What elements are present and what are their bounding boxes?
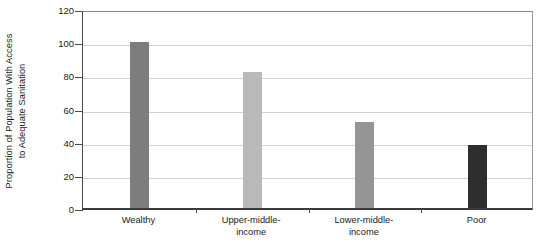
y-axis-tick-mark [75, 210, 83, 211]
x-axis-category-label: Lower-middle-income [334, 214, 393, 238]
y-axis-tick-label: 40 [40, 139, 74, 149]
x-axis-category-label: Wealthy [122, 214, 155, 226]
x-axis-category-label: Poor [467, 214, 487, 226]
x-axis-category-label-line: Wealthy [122, 214, 155, 226]
x-axis-category-labels: WealthyUpper-middle-incomeLower-middle-i… [82, 214, 533, 250]
y-axis-tick-label: 60 [40, 106, 74, 116]
x-axis-category-label-line: Upper-middle- [222, 214, 281, 226]
x-axis-category-label-line: Lower-middle- [334, 214, 393, 226]
gridline [83, 178, 532, 179]
bar [243, 72, 262, 208]
plot-area [82, 11, 533, 210]
x-axis-category-label: Upper-middle-income [222, 214, 281, 238]
gridline [83, 45, 532, 46]
y-axis-tick-label: 0 [40, 205, 74, 215]
x-axis-category-label-line: income [334, 226, 393, 238]
y-axis-tick-label: 100 [40, 39, 74, 49]
x-axis-tick-mark [421, 208, 422, 213]
y-axis-tick-label: 120 [40, 6, 74, 16]
gridline [83, 78, 532, 79]
x-axis-category-label-line: Poor [467, 214, 487, 226]
x-axis-category-label-line: income [222, 226, 281, 238]
y-axis-tick-label: 80 [40, 72, 74, 82]
gridline [83, 145, 532, 146]
y-axis-tick-labels: 020406080100120 [36, 0, 74, 250]
y-axis-title-line-2: to Adequate Sanitation [15, 33, 28, 188]
y-axis-title: Proportion of Population With Access to … [0, 11, 30, 210]
bar [468, 145, 487, 208]
y-axis-title-line-1: Proportion of Population With Access [3, 33, 16, 188]
bar [355, 122, 374, 208]
gridline [83, 112, 532, 113]
x-axis-tick-mark [309, 208, 310, 213]
x-axis-tick-mark [196, 208, 197, 213]
bar-chart-figure: Proportion of Population With Access to … [0, 0, 544, 250]
y-axis-tick-label: 20 [40, 172, 74, 182]
bar [130, 42, 149, 208]
